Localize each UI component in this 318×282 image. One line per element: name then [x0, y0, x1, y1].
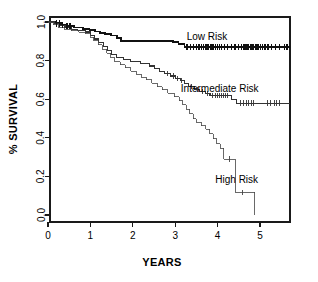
survival-curve	[48, 22, 255, 215]
survival-curves	[48, 22, 290, 215]
censoring-marks	[56, 20, 287, 195]
y-tick-label: 0.6	[36, 92, 47, 106]
x-axis-title: YEARS	[142, 256, 181, 268]
y-tick-label: 0.4	[36, 130, 47, 144]
x-axis-tick-labels: 012345	[45, 230, 263, 241]
curve-label: High Risk	[215, 174, 259, 185]
y-tick-label: 0.0	[36, 208, 47, 222]
y-axis-tick-labels: 0.00.20.40.60.81.0	[36, 15, 47, 222]
x-tick-label: 1	[88, 230, 94, 241]
y-tick-label: 1.0	[36, 15, 47, 29]
curve-label: Low Risk	[187, 31, 229, 42]
survival-plot-figure: 012345 0.00.20.40.60.81.0 Low RiskInterm…	[0, 0, 318, 282]
kaplan-meier-chart: 012345 0.00.20.40.60.81.0 Low RiskInterm…	[0, 0, 318, 282]
y-tick-label: 0.2	[36, 169, 47, 183]
x-tick-label: 3	[172, 230, 178, 241]
x-tick-label: 5	[257, 230, 263, 241]
y-tick-label: 0.8	[36, 53, 47, 67]
survival-curve	[48, 22, 290, 47]
y-axis-ticks	[45, 22, 50, 215]
x-axis-ticks	[48, 222, 260, 227]
curve-label: Intermediate Risk	[181, 83, 260, 94]
x-tick-label: 2	[130, 230, 136, 241]
y-axis-title: % SURVIVAL	[7, 84, 19, 154]
x-tick-label: 0	[45, 230, 51, 241]
x-tick-label: 4	[215, 230, 221, 241]
curve-annotations: Low RiskIntermediate RiskHigh Risk	[181, 31, 260, 185]
